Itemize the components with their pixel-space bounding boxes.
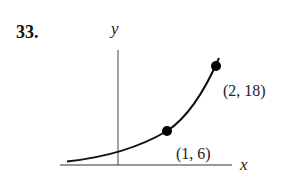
point-label-1: (1, 6) bbox=[176, 145, 211, 163]
graph: y x (1, 6) (2, 18) bbox=[0, 0, 294, 191]
x-axis-label: x bbox=[239, 155, 248, 174]
point-label-2: (2, 18) bbox=[223, 82, 266, 100]
y-axis-label: y bbox=[109, 19, 119, 38]
point-1-6 bbox=[162, 126, 172, 136]
point-2-18 bbox=[211, 61, 221, 71]
